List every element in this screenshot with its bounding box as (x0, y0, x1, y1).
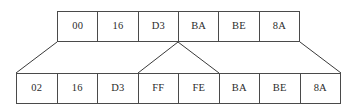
middle-split-right-leg (178, 42, 219, 73)
byte-cell: D3 (98, 74, 139, 103)
byte-cell: BA (220, 74, 261, 103)
byte-cell: BA (179, 12, 219, 41)
byte-cell: 00 (58, 12, 98, 41)
byte-cell: 8A (301, 74, 341, 103)
byte-cell: BE (219, 12, 259, 41)
byte-cell: FE (179, 74, 220, 103)
byte-cell: 8A (260, 12, 299, 41)
left-span-connector (16, 42, 57, 73)
expanded-byte-sequence-row: 02 16 D3 FF FE BA BE 8A (16, 73, 341, 104)
byte-cell: 16 (98, 12, 138, 41)
byte-cell: 02 (17, 74, 58, 103)
middle-split-left-leg (138, 42, 178, 73)
right-span-connector (300, 42, 341, 73)
byte-expansion-diagram: 00 16 D3 BA BE 8A 02 16 D3 FF FE BA BE 8… (0, 0, 355, 112)
byte-cell: BE (260, 74, 301, 103)
byte-cell: D3 (139, 12, 179, 41)
byte-cell: FF (139, 74, 180, 103)
byte-cell: 16 (58, 74, 99, 103)
original-byte-sequence-row: 00 16 D3 BA BE 8A (57, 11, 300, 42)
